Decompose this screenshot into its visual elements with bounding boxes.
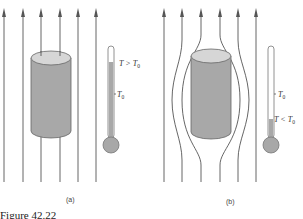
cylinder-b — [191, 49, 231, 139]
cylinder-body — [31, 58, 71, 138]
thermometer-bulb — [263, 137, 279, 153]
panel-a: T > T0 T0 (a) — [2, 8, 140, 204]
thermometer-mercury — [109, 62, 113, 140]
arrow-up-icon — [21, 8, 25, 17]
arrow-up-icon — [199, 8, 203, 17]
thermometer-a: T > T0 T0 — [103, 46, 140, 153]
arrowheads-a — [2, 8, 98, 17]
arrow-up-icon — [2, 8, 6, 17]
arrow-up-icon — [76, 8, 80, 17]
arrow-up-icon — [94, 8, 98, 17]
arrow-up-icon — [180, 8, 184, 17]
cylinder-top — [191, 49, 231, 63]
thermometer-reference-label: T0 — [117, 90, 124, 100]
thermometer-reading-label: T > T0 — [119, 59, 140, 69]
arrowheads-b — [162, 8, 258, 17]
arrow-up-icon — [39, 8, 43, 17]
thermometer-reference-label: T0 — [278, 90, 285, 100]
cylinder-a — [31, 51, 71, 138]
figure-diagram: T > T0 T0 (a) — [0, 0, 303, 219]
thermometer-bulb — [103, 137, 119, 153]
figure-caption: Figure 42.22 — [0, 209, 56, 219]
thermometer-b: T0 T < T0 — [263, 46, 295, 153]
panel-label-b: (b) — [226, 198, 235, 206]
arrow-up-icon — [218, 8, 222, 17]
arrow-up-icon — [236, 8, 240, 17]
panel-b: T0 T < T0 (b) — [162, 8, 295, 206]
arrow-up-icon — [254, 8, 258, 17]
thermometer-reading-label: T < T0 — [274, 115, 295, 125]
panel-label-a: (a) — [66, 196, 75, 204]
cylinder-body — [191, 56, 231, 139]
cylinder-top — [31, 51, 71, 65]
arrow-up-icon — [162, 8, 166, 17]
field-line-curved — [172, 12, 182, 182]
arrow-up-icon — [58, 8, 62, 17]
